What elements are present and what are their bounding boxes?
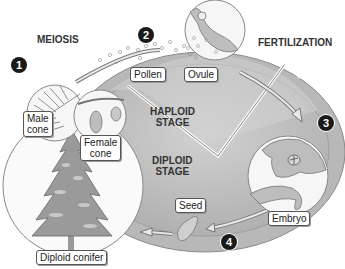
step-2-badge: 2 xyxy=(138,27,154,43)
male-cone-label-line1: Male xyxy=(27,113,49,124)
male-cone-label-line2: cone xyxy=(27,124,49,135)
step-1-badge: 1 xyxy=(11,57,27,73)
conifer-life-cycle-diagram: MEIOSIS FERTILIZATION HAPLOID STAGE DIPL… xyxy=(0,0,345,269)
diploid-stage-heading: DIPLOID STAGE xyxy=(152,155,193,177)
diploid-conifer-label: Diploid conifer xyxy=(36,250,107,265)
meiosis-heading: MEIOSIS xyxy=(37,34,79,45)
embryo-label: Embryo xyxy=(268,211,310,226)
female-cone-label: Female cone xyxy=(80,135,121,161)
pollen-label: Pollen xyxy=(130,67,166,82)
haploid-stage-line1: HAPLOID xyxy=(150,106,195,117)
haploid-stage-heading: HAPLOID STAGE xyxy=(150,106,195,128)
step-3-badge: 3 xyxy=(318,115,334,131)
male-cone-label: Male cone xyxy=(23,111,53,137)
haploid-stage-line2: STAGE xyxy=(150,117,195,128)
step-4-badge: 4 xyxy=(221,234,237,250)
diploid-stage-line1: DIPLOID xyxy=(152,155,193,166)
fertilization-heading: FERTILIZATION xyxy=(258,37,332,48)
female-cone-label-line1: Female xyxy=(84,137,117,148)
female-cone-label-line2: cone xyxy=(84,148,117,159)
diploid-stage-line2: STAGE xyxy=(152,166,193,177)
seed-label: Seed xyxy=(175,198,206,213)
ovule-label: Ovule xyxy=(184,67,218,82)
